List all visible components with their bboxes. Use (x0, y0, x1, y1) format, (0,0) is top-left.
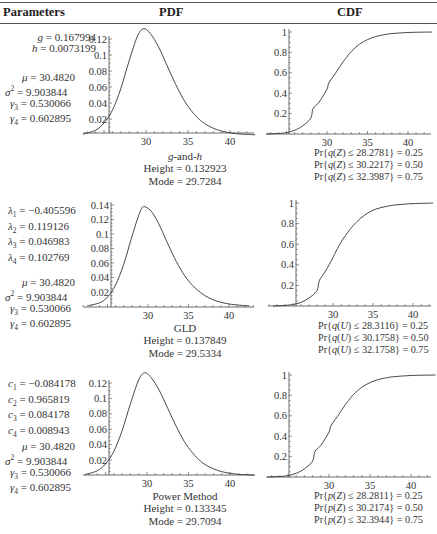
y-tick-label: 0.8 (274, 390, 287, 401)
pdf-caption-gh: g-and-h Height = 0.132923 Mode = 29.7284 (110, 150, 260, 187)
x-tick-label: 40 (224, 310, 235, 321)
chart-gld-pdf: 3035400.020.040.060.080.10.120.14 (83, 200, 254, 322)
y-tick-label: 0.12 (89, 378, 107, 389)
probability-line: Pr{q(Z) ≤ 32.3987} = 0.75 (314, 171, 423, 183)
cdf-probabilities-2: Pr{p(Z) ≤ 28.2811} = 0.25Pr{p(Z) ≤ 30.21… (314, 490, 423, 527)
y-tick-label: 0.02 (91, 287, 109, 298)
x-tick-label: 30 (143, 310, 154, 321)
y-tick-label: 0.6 (274, 410, 287, 421)
y-tick-label: 1 (282, 27, 287, 38)
x-tick-label: 35 (183, 136, 194, 147)
y-tick-label: 0.8 (274, 47, 287, 58)
y-tick-label: 0.06 (89, 424, 107, 435)
y-tick-label: 0.1 (96, 229, 109, 240)
x-tick-label: 35 (183, 310, 194, 321)
probability-line: Pr{p(Z) ≤ 28.2811} = 0.25 (314, 490, 423, 502)
pdf-title-gh: g-and-h (110, 150, 260, 162)
probability-line: Pr{q(Z) ≤ 28.2781} = 0.25 (314, 147, 423, 159)
y-tick-label: 0.04 (91, 272, 110, 283)
y-tick-label: 0.12 (91, 214, 109, 225)
x-tick-label: 30 (141, 136, 152, 147)
probability-line: Pr{p(Z) ≤ 32.3944} = 0.75 (314, 514, 423, 526)
y-tick-label: 0.08 (89, 408, 107, 419)
chart-g-and-h-pdf: 3035400.020.040.060.080.10.12 (83, 29, 255, 147)
pdf-height-gh: Height = 0.132923 (110, 162, 260, 174)
x-tick-label: 35 (183, 478, 194, 489)
pdf-caption-gld: GLD Height = 0.137849 Mode = 29.5334 (110, 322, 260, 359)
cdf-probabilities-0: Pr{q(Z) ≤ 28.2781} = 0.25Pr{q(Z) ≤ 30.22… (314, 147, 423, 184)
y-tick-label: 0.06 (91, 258, 109, 269)
y-tick-label: 0.06 (89, 82, 107, 93)
pdf-height-gld: Height = 0.137849 (110, 334, 260, 346)
pdf-title-power: Power Method (110, 490, 260, 502)
cdf-probabilities-1: Pr{q(U) ≤ 28.3116} = 0.25Pr{q(U) ≤ 30.17… (318, 320, 429, 357)
x-tick-label: 35 (368, 309, 379, 320)
pdf-height-power: Height = 0.133345 (110, 502, 260, 514)
x-tick-label: 30 (328, 309, 339, 320)
x-tick-label: 40 (225, 478, 236, 489)
probability-line: Pr{q(U) ≤ 32.1758} = 0.75 (318, 344, 429, 356)
y-tick-label: 0.1 (94, 50, 107, 61)
pdf-curve (87, 207, 249, 306)
y-tick-label: 1 (282, 370, 287, 381)
y-tick-label: 0.2 (281, 280, 294, 291)
y-tick-label: 1 (289, 198, 294, 209)
y-tick-label: 0.08 (91, 243, 109, 254)
pdf-mode-gld: Mode = 29.5334 (110, 347, 260, 359)
x-tick-label: 30 (142, 478, 153, 489)
y-tick-label: 0.4 (274, 431, 288, 442)
probability-line: Pr{q(U) ≤ 28.3116} = 0.25 (318, 320, 429, 332)
chart-g-and-h-cdf: 3035400.20.40.60.81 (266, 27, 432, 149)
chart-power-method-pdf: 3035400.020.040.060.080.10.12 (83, 373, 255, 489)
pdf-mode-power: Mode = 29.7094 (110, 515, 260, 527)
x-tick-label: 40 (408, 309, 419, 320)
y-tick-label: 0.02 (89, 455, 107, 466)
probability-line: Pr{q(Z) ≤ 30.2217} = 0.50 (314, 159, 423, 171)
y-tick-label: 0.08 (89, 66, 107, 77)
y-tick-label: 0.2 (274, 108, 287, 119)
pdf-mode-gh: Mode = 29.7284 (110, 175, 260, 187)
plots-canvas: 3035400.020.040.060.080.10.123035400.20.… (0, 0, 437, 534)
y-tick-label: 0.2 (274, 451, 287, 462)
y-tick-label: 0.4 (281, 259, 295, 270)
probability-line: Pr{p(Z) ≤ 30.2174} = 0.50 (314, 502, 423, 514)
pdf-caption-power: Power Method Height = 0.133345 Mode = 29… (110, 490, 260, 527)
y-tick-label: 0.6 (274, 67, 287, 78)
pdf-title-gld: GLD (110, 322, 260, 334)
chart-power-method-cdf: 3035400.20.40.60.81 (266, 370, 436, 492)
y-tick-label: 0.12 (89, 34, 107, 45)
y-tick-label: 0.6 (281, 239, 294, 250)
probability-line: Pr{q(U) ≤ 30.1758} = 0.50 (318, 332, 429, 344)
cdf-curve (266, 32, 432, 134)
x-tick-label: 40 (225, 136, 236, 147)
y-tick-label: 0.04 (89, 439, 108, 450)
y-tick-label: 0.04 (89, 98, 108, 109)
y-tick-label: 0.14 (91, 200, 110, 211)
chart-gld-cdf: 3035400.20.40.60.81 (268, 198, 433, 321)
y-tick-label: 0.4 (274, 88, 288, 99)
cdf-curve (268, 375, 436, 477)
y-tick-label: 0.1 (94, 393, 107, 404)
y-tick-label: 0.8 (281, 218, 294, 229)
